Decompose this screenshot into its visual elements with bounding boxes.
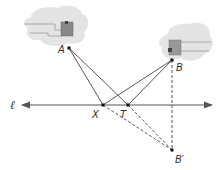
cloud-left xyxy=(24,6,88,46)
label-T: T xyxy=(120,109,127,120)
building-a-roof xyxy=(65,21,68,24)
point-A xyxy=(68,47,71,50)
point-Bprime xyxy=(171,149,174,152)
point-B xyxy=(171,59,174,62)
segment-AT xyxy=(69,48,128,105)
house-b-illustration xyxy=(159,23,213,61)
building-a xyxy=(61,22,73,36)
house-a-illustration xyxy=(24,6,88,46)
line-l-label: ℓ xyxy=(10,98,15,112)
label-X: X xyxy=(91,109,100,120)
segment-XBprime xyxy=(103,105,172,150)
label-B: B xyxy=(176,62,183,73)
point-T xyxy=(127,104,130,107)
solid-segments xyxy=(69,48,172,105)
building-b-door xyxy=(168,48,172,52)
reflection-diagram: ℓ A B X T B′ xyxy=(0,0,222,170)
segment-XB xyxy=(103,60,172,105)
segment-TB xyxy=(128,60,172,105)
segment-TBprime xyxy=(128,105,172,150)
label-Bprime: B′ xyxy=(175,154,185,165)
building-b xyxy=(169,40,181,55)
point-X xyxy=(102,104,105,107)
label-A: A xyxy=(57,44,65,55)
